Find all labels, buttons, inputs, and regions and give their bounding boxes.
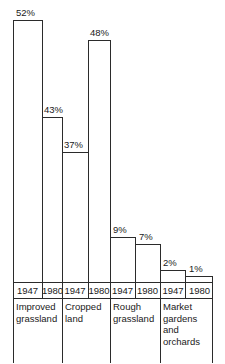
bar-value-cropped-land-1980: 48% bbox=[90, 27, 109, 38]
year-label-cropped-land-1980: 1980 bbox=[88, 283, 110, 298]
category-label-market-gardens: Market gardens and orchards bbox=[160, 299, 213, 347]
category-label-improved-grassland: Improved grassland bbox=[13, 299, 62, 324]
year-label-market-gardens-1980: 1980 bbox=[186, 283, 213, 298]
group-divider-2 bbox=[110, 237, 111, 363]
category-label-rough-grassland: Rough grassland bbox=[110, 299, 160, 324]
group-divider-right-edge bbox=[212, 276, 213, 363]
year-label-improved-grassland-1947: 1947 bbox=[13, 283, 42, 298]
bar-value-rough-grassland-1980: 7% bbox=[139, 231, 153, 242]
inner-divider-cropped-land bbox=[88, 283, 89, 298]
year-label-row: 1947 1980 1947 1980 1947 1980 1947 1980 bbox=[13, 283, 213, 298]
bar-value-market-gardens-1980: 1% bbox=[189, 263, 203, 274]
inner-divider-rough-grassland bbox=[135, 283, 136, 298]
year-label-cropped-land-1947: 1947 bbox=[62, 283, 88, 298]
bar-cropped-land-1980 bbox=[88, 40, 111, 283]
bar-rough-grassland-1980 bbox=[135, 244, 161, 283]
bar-improved-grassland-1980 bbox=[42, 117, 63, 283]
plot-area: 52% 43% 37% 48% 9% 7% 2% 1% bbox=[0, 0, 225, 282]
bar-chart: 52% 43% 37% 48% 9% 7% 2% 1% 1947 1980 19… bbox=[0, 0, 225, 364]
bar-value-rough-grassland-1947: 9% bbox=[113, 224, 127, 235]
inner-divider-improved-grassland bbox=[42, 283, 43, 298]
year-label-market-gardens-1947: 1947 bbox=[160, 283, 186, 298]
group-divider-left-edge bbox=[13, 20, 14, 363]
category-label-cropped-land: Cropped land bbox=[62, 299, 110, 324]
inner-divider-market-gardens bbox=[185, 283, 186, 298]
year-label-rough-grassland-1980: 1980 bbox=[135, 283, 160, 298]
bar-value-cropped-land-1947: 37% bbox=[64, 139, 83, 150]
group-divider-1 bbox=[62, 152, 63, 363]
year-label-rough-grassland-1947: 1947 bbox=[110, 283, 135, 298]
group-divider-3 bbox=[160, 270, 161, 363]
year-label-improved-grassland-1980: 1980 bbox=[42, 283, 62, 298]
bar-rough-grassland-1947 bbox=[110, 237, 136, 283]
category-label-row: Improved grassland Cropped land Rough gr… bbox=[13, 299, 213, 363]
bar-improved-grassland-1947 bbox=[13, 20, 43, 283]
bar-value-improved-grassland-1947: 52% bbox=[16, 7, 35, 18]
bar-cropped-land-1947 bbox=[62, 152, 89, 283]
bar-value-improved-grassland-1980: 43% bbox=[44, 104, 63, 115]
bar-value-market-gardens-1947: 2% bbox=[163, 257, 177, 268]
